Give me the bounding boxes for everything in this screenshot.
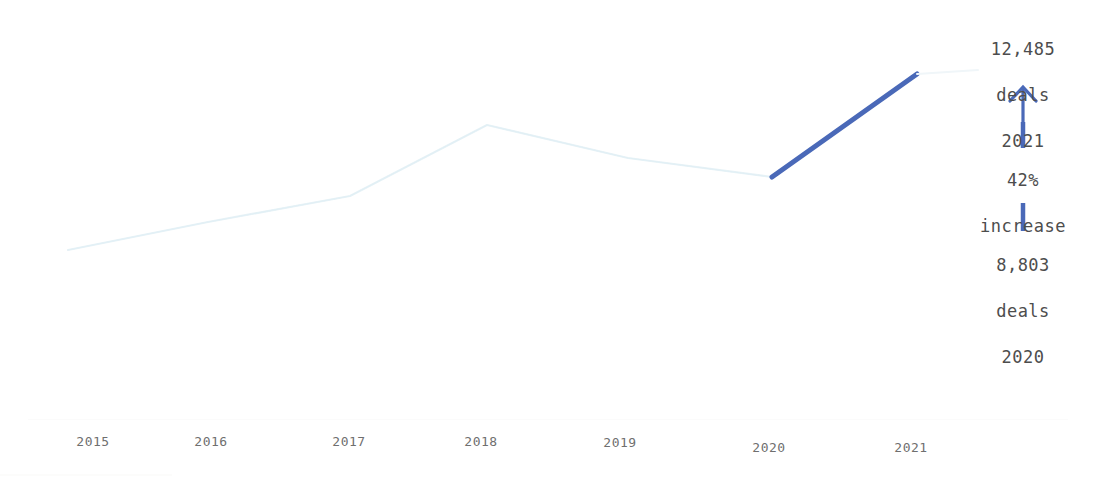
deals-trend-chart: 2015 2016 2017 2018 2019 2020 2021 12,48… — [0, 0, 1093, 487]
callout-bottom-unit: deals — [996, 300, 1050, 323]
callout-bottom-year: 2020 — [996, 346, 1050, 369]
trend-line-highlight-2020-2021 — [772, 74, 917, 177]
trend-line-faint — [68, 125, 772, 250]
plot-area — [0, 0, 1093, 487]
callout-bottom-value: 8,803 deals 2020 — [996, 231, 1050, 392]
callout-bottom-number: 8,803 — [996, 254, 1050, 277]
trend-line-tail-faint — [917, 70, 978, 74]
callout-top-unit: deals — [991, 84, 1055, 107]
callout-top-number: 12,485 — [991, 38, 1055, 61]
trend-line-faint-overlay — [68, 125, 772, 250]
callout-percent: 42% — [980, 169, 1066, 192]
